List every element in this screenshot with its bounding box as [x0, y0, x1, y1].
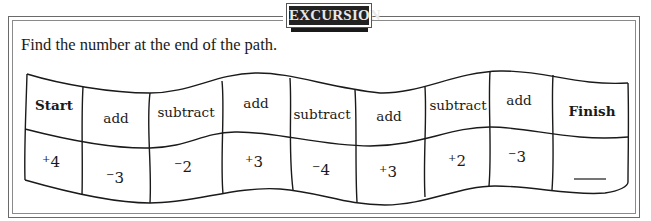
cell-finish: Finish: [568, 103, 615, 119]
cell-op-2: add: [103, 110, 129, 126]
value-8: −3: [508, 148, 526, 166]
value-6: +3: [379, 163, 397, 181]
cell-op-5: subtract: [293, 106, 351, 122]
cell-op-4: add: [243, 95, 269, 111]
value-5: −4: [312, 161, 330, 179]
value-4: +3: [245, 153, 263, 171]
cell-op-3: subtract: [157, 104, 215, 120]
cell-op-8: add: [506, 92, 532, 108]
divider-5: [355, 90, 357, 202]
wavy-path-table: Start add subtract add subtract add subt…: [0, 0, 651, 221]
divider-6: [424, 87, 425, 197]
cell-op-7: subtract: [429, 97, 487, 113]
path-middle-line: [25, 127, 628, 148]
path-top-edge: [27, 71, 628, 93]
path-left-edge: [25, 74, 27, 180]
cell-op-6: add: [376, 108, 402, 124]
value-7: +2: [448, 152, 466, 170]
divider-7: [489, 72, 490, 186]
value-2: −3: [106, 169, 124, 187]
divider-1: [82, 87, 83, 195]
divider-8: [552, 75, 553, 190]
divider-3: [222, 81, 223, 194]
value-1: +4: [42, 153, 60, 171]
value-3: −2: [174, 158, 192, 176]
cell-start: Start: [35, 97, 74, 113]
divider-4: [290, 78, 293, 190]
